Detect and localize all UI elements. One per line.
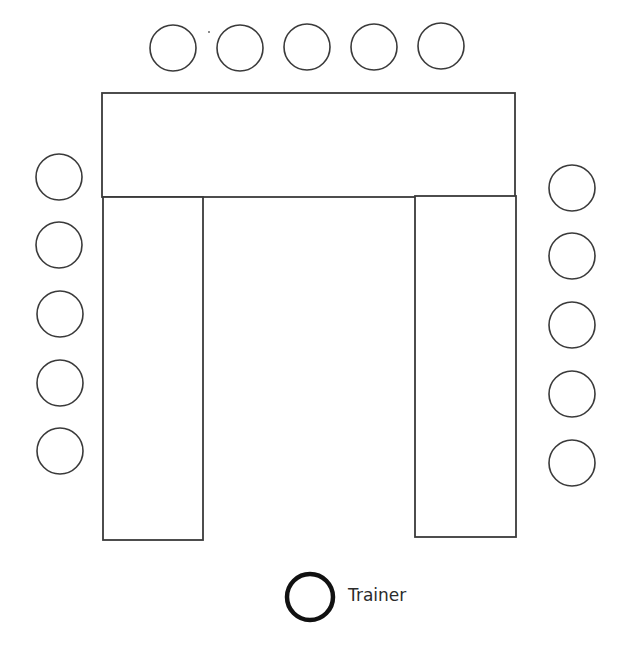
seat-top-3-icon <box>284 24 330 70</box>
top-table <box>102 93 515 197</box>
seat-right-3-icon <box>549 302 595 348</box>
trainer-label: Trainer <box>348 585 406 605</box>
seat-left-4-icon <box>37 360 83 406</box>
seat-right-2-icon <box>549 233 595 279</box>
seat-right-5-icon <box>549 440 595 486</box>
seat-top-5-icon <box>418 23 464 69</box>
seat-left-5-icon <box>37 428 83 474</box>
tables-group <box>102 93 516 540</box>
seating-diagram <box>0 0 622 656</box>
seat-left-3-icon <box>37 291 83 337</box>
left-table <box>103 197 203 540</box>
seat-left-1-icon <box>36 154 82 200</box>
seat-right-4-icon <box>549 371 595 417</box>
seat-top-2-icon <box>217 25 263 71</box>
right-table <box>415 196 516 537</box>
seat-top-1-icon <box>150 25 196 71</box>
seat-right-1-icon <box>549 165 595 211</box>
seat-left-2-icon <box>36 222 82 268</box>
stray-dot <box>208 31 210 33</box>
seat-top-4-icon <box>351 24 397 70</box>
trainer-seat-icon <box>287 574 333 620</box>
